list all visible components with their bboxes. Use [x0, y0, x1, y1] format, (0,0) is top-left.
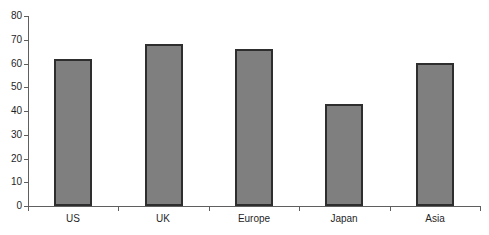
y-axis-tick	[24, 16, 28, 17]
bar-europe	[235, 49, 273, 206]
x-axis-tick	[209, 207, 210, 211]
bar-japan	[325, 104, 363, 206]
bar-uk	[145, 44, 183, 206]
x-axis-tick	[299, 207, 300, 211]
y-axis-tick-label: 60	[2, 59, 22, 69]
x-axis-category-label: Asia	[390, 213, 480, 225]
bar-chart: 01020304050607080USUKEuropeJapanAsia	[0, 0, 489, 235]
y-axis-tick	[24, 111, 28, 112]
x-axis-category-label: Europe	[209, 213, 299, 225]
x-axis-category-label: US	[28, 213, 118, 225]
y-axis-tick-label: 80	[2, 11, 22, 21]
y-axis-tick-label: 30	[2, 130, 22, 140]
y-axis-tick-label: 0	[2, 201, 22, 211]
y-axis-tick	[24, 182, 28, 183]
y-axis-tick-label: 10	[2, 177, 22, 187]
x-axis-tick	[480, 207, 481, 211]
x-axis-tick	[118, 207, 119, 211]
y-axis-tick-label: 40	[2, 106, 22, 116]
x-axis-tick	[28, 207, 29, 211]
y-axis-tick-label: 20	[2, 154, 22, 164]
bar-us	[54, 59, 92, 206]
y-axis-tick	[24, 64, 28, 65]
y-axis-tick-label: 50	[2, 82, 22, 92]
x-axis-category-label: UK	[118, 213, 208, 225]
y-axis-tick	[24, 135, 28, 136]
x-axis-line	[28, 206, 481, 207]
bar-asia	[416, 63, 454, 206]
y-axis-line	[28, 16, 29, 207]
y-axis-tick	[24, 40, 28, 41]
y-axis-tick	[24, 159, 28, 160]
y-axis-tick	[24, 87, 28, 88]
x-axis-tick	[390, 207, 391, 211]
y-axis-tick-label: 70	[2, 35, 22, 45]
x-axis-category-label: Japan	[299, 213, 389, 225]
